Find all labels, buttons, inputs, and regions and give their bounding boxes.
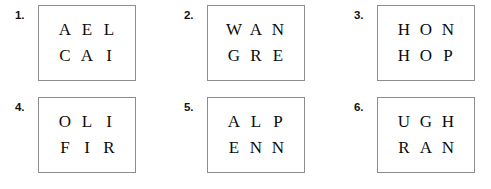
letter-cell: L (76, 109, 98, 135)
letter-cell: I (98, 43, 120, 69)
letter-box-6[interactable]: U G H R A N (377, 97, 475, 173)
puzzle-item-6: 6. U G H R A N (339, 97, 491, 189)
letter-cell: A (54, 17, 76, 43)
letter-row-5-top: A L P (223, 109, 289, 135)
letter-cell: H (393, 17, 415, 43)
letter-cell: E (76, 17, 98, 43)
letter-cell: O (54, 109, 76, 135)
letter-row-5-bottom: E N N (223, 135, 289, 161)
letter-row-1-top: A E L (54, 17, 120, 43)
letter-box-1[interactable]: A E L C A I (38, 5, 136, 81)
letter-box-4[interactable]: O L I F I R (38, 97, 136, 173)
letter-cell: A (76, 43, 98, 69)
letter-cell: P (267, 109, 289, 135)
letter-cell: G (415, 109, 437, 135)
letter-cell: I (76, 135, 98, 161)
puzzle-item-4: 4. O L I F I R (0, 97, 169, 189)
puzzle-item-3: 3. H O N H O P (339, 5, 491, 97)
letter-row-4-bottom: F I R (54, 135, 120, 161)
puzzle-item-2: 2. W A N G R E (169, 5, 339, 97)
letter-cell: G (223, 43, 245, 69)
puzzle-sheet: 1. A E L C A I 2. W A N (0, 0, 491, 189)
letter-cell: H (393, 43, 415, 69)
letter-cell: P (437, 43, 459, 69)
item-number-3: 3. (354, 5, 372, 22)
letter-cell: H (437, 109, 459, 135)
letter-cell: N (245, 135, 267, 161)
puzzle-item-1: 1. A E L C A I (0, 5, 169, 97)
letter-box-5[interactable]: A L P E N N (207, 97, 305, 173)
letter-cell: A (223, 109, 245, 135)
letter-box-3[interactable]: H O N H O P (377, 5, 475, 81)
letter-cell: F (54, 135, 76, 161)
letter-cell: C (54, 43, 76, 69)
letter-row-6-top: U G H (393, 109, 459, 135)
letter-row-1-bottom: C A I (54, 43, 120, 69)
item-number-5: 5. (184, 97, 202, 114)
letter-row-2-top: W A N (223, 17, 289, 43)
letter-cell: N (437, 17, 459, 43)
letter-cell: A (415, 135, 437, 161)
letter-row-4-top: O L I (54, 109, 120, 135)
letter-row-3-bottom: H O P (393, 43, 459, 69)
letter-row-3-top: H O N (393, 17, 459, 43)
letter-cell: L (245, 109, 267, 135)
item-number-6: 6. (354, 97, 372, 114)
letter-box-2[interactable]: W A N G R E (207, 5, 305, 81)
letter-cell: N (267, 17, 289, 43)
letter-cell: R (98, 135, 120, 161)
letter-cell: L (98, 17, 120, 43)
item-number-2: 2. (184, 5, 202, 22)
letter-cell: O (415, 43, 437, 69)
letter-cell: I (98, 109, 120, 135)
letter-cell: R (245, 43, 267, 69)
letter-row-2-bottom: G R E (223, 43, 289, 69)
letter-cell: U (393, 109, 415, 135)
letter-cell: E (223, 135, 245, 161)
letter-cell: O (415, 17, 437, 43)
letter-cell: A (245, 17, 267, 43)
letter-cell: R (393, 135, 415, 161)
letter-cell: W (223, 17, 245, 43)
item-number-4: 4. (15, 97, 33, 114)
puzzle-grid: 1. A E L C A I 2. W A N (0, 0, 491, 189)
letter-row-6-bottom: R A N (393, 135, 459, 161)
puzzle-item-5: 5. A L P E N N (169, 97, 339, 189)
letter-cell: E (267, 43, 289, 69)
letter-cell: N (437, 135, 459, 161)
letter-cell: N (267, 135, 289, 161)
item-number-1: 1. (15, 5, 33, 22)
